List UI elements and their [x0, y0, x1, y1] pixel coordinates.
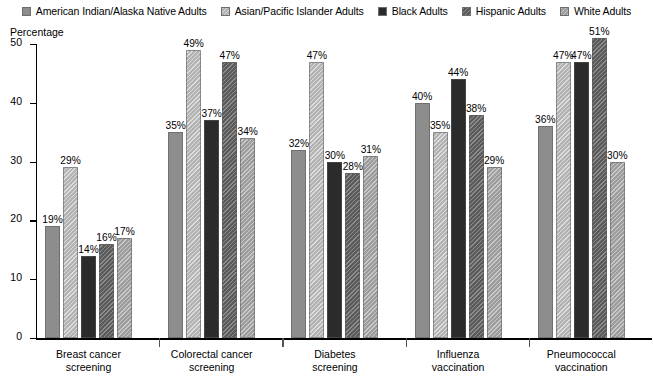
- bar-value-label-2-0: 32%: [289, 138, 309, 149]
- category-label-line-3-1: vaccination: [432, 361, 485, 374]
- legend-swatch-asian-pacific: [221, 7, 230, 16]
- bar-3-4[interactable]: 29%: [487, 167, 502, 338]
- legend-swatch-hispanic: [462, 7, 471, 16]
- y-tick-label-50: 50: [10, 37, 22, 48]
- bar-2-1[interactable]: 47%: [309, 62, 324, 338]
- bar-1-4[interactable]: 34%: [240, 138, 255, 338]
- group-separator-1: [159, 338, 160, 347]
- y-axis-line: [36, 44, 37, 338]
- y-tick-label-10: 10: [10, 272, 22, 283]
- category-label-line-4-0: Pneumococcal: [547, 348, 616, 361]
- group-separator-3: [406, 338, 407, 347]
- y-tick-10: 10: [30, 279, 36, 280]
- bar-value-label-0-0: 19%: [42, 214, 62, 225]
- y-tick-30: 30: [30, 162, 36, 163]
- bar-value-label-1-1: 49%: [183, 38, 203, 49]
- legend-item-1: Asian/Pacific Islander Adults: [221, 6, 364, 17]
- bar-value-label-3-0: 40%: [412, 91, 432, 102]
- bar-1-0[interactable]: 35%: [168, 132, 183, 338]
- bar-value-label-2-3: 28%: [343, 161, 363, 172]
- bar-value-label-4-3: 51%: [589, 26, 609, 37]
- y-tick-label-20: 20: [10, 213, 22, 224]
- bar-value-label-0-1: 29%: [60, 155, 80, 166]
- bar-0-2[interactable]: 14%: [81, 256, 96, 338]
- legend-swatch-american-indian: [22, 7, 31, 16]
- bar-value-label-2-2: 30%: [325, 150, 345, 161]
- bar-0-4[interactable]: 17%: [117, 238, 132, 338]
- bar-3-3[interactable]: 38%: [469, 115, 484, 338]
- bar-3-2[interactable]: 44%: [451, 79, 466, 338]
- bar-value-label-3-4: 29%: [484, 155, 504, 166]
- category-label-line-1-1: screening: [171, 361, 253, 374]
- y-tick-40: 40: [30, 103, 36, 104]
- y-tick-label-40: 40: [10, 96, 22, 107]
- bar-1-1[interactable]: 49%: [186, 50, 201, 338]
- y-tick-20: 20: [30, 220, 36, 221]
- legend-item-2: Black Adults: [378, 6, 448, 17]
- bar-value-label-1-4: 34%: [237, 126, 257, 137]
- bar-value-label-4-0: 36%: [535, 114, 555, 125]
- bar-2-0[interactable]: 32%: [291, 150, 306, 338]
- y-tick-label-0: 0: [16, 331, 22, 342]
- bar-value-label-0-4: 17%: [114, 226, 134, 237]
- category-label-line-3-0: Influenza: [432, 348, 485, 361]
- bar-2-4[interactable]: 31%: [363, 156, 378, 338]
- y-tick-0: 0: [30, 338, 36, 339]
- bar-value-label-2-4: 31%: [361, 144, 381, 155]
- legend-item-0: American Indian/Alaska Native Adults: [22, 6, 207, 17]
- bar-1-2[interactable]: 37%: [204, 120, 219, 338]
- legend-label-4: White Adults: [574, 6, 631, 17]
- bar-value-label-3-3: 38%: [466, 103, 486, 114]
- category-label-line-0-1: screening: [56, 361, 121, 374]
- bar-value-label-3-1: 35%: [430, 120, 450, 131]
- category-label-line-2-1: screening: [312, 361, 358, 374]
- y-tick-label-30: 30: [10, 155, 22, 166]
- bar-4-3[interactable]: 51%: [592, 38, 607, 338]
- bar-value-label-4-2: 47%: [571, 50, 591, 61]
- x-axis-line: [36, 338, 652, 340]
- category-label-0: Breast cancerscreening: [56, 348, 121, 373]
- bar-0-3[interactable]: 16%: [99, 244, 114, 338]
- bar-value-label-0-2: 14%: [78, 244, 98, 255]
- bar-value-label-4-4: 30%: [607, 150, 627, 161]
- group-separator-4: [529, 338, 530, 347]
- y-tick-50: 50: [30, 44, 36, 45]
- legend-item-3: Hispanic Adults: [462, 6, 546, 17]
- bar-1-3[interactable]: 47%: [222, 62, 237, 338]
- legend-label-3: Hispanic Adults: [476, 6, 546, 17]
- bar-0-0[interactable]: 19%: [45, 226, 60, 338]
- legend-item-4: White Adults: [560, 6, 631, 17]
- bar-2-3[interactable]: 28%: [345, 173, 360, 338]
- bar-0-1[interactable]: 29%: [63, 167, 78, 338]
- legend-label-1: Asian/Pacific Islander Adults: [235, 6, 364, 17]
- category-label-line-1-0: Colorectal cancer: [171, 348, 253, 361]
- category-label-line-0-0: Breast cancer: [56, 348, 121, 361]
- category-label-2: Diabetesscreening: [312, 348, 358, 373]
- bar-value-label-1-0: 35%: [165, 120, 185, 131]
- category-label-line-4-1: vaccination: [547, 361, 616, 374]
- category-label-1: Colorectal cancerscreening: [171, 348, 253, 373]
- plot-area: 01020304050 19%29%14%16%17%35%49%37%47%3…: [36, 44, 652, 338]
- category-label-3: Influenzavaccination: [432, 348, 485, 373]
- bar-value-label-1-3: 47%: [219, 50, 239, 61]
- group-separator-2: [282, 338, 283, 347]
- category-label-line-2-0: Diabetes: [312, 348, 358, 361]
- chart-legend: American Indian/Alaska Native AdultsAsia…: [0, 0, 653, 22]
- bar-4-4[interactable]: 30%: [610, 162, 625, 338]
- bar-value-label-1-2: 37%: [201, 108, 221, 119]
- legend-label-0: American Indian/Alaska Native Adults: [36, 6, 207, 17]
- category-label-4: Pneumococcalvaccination: [547, 348, 616, 373]
- bar-3-0[interactable]: 40%: [415, 103, 430, 338]
- legend-swatch-white: [560, 7, 569, 16]
- legend-swatch-black: [378, 7, 387, 16]
- bar-2-2[interactable]: 30%: [327, 162, 342, 338]
- bar-3-1[interactable]: 35%: [433, 132, 448, 338]
- bar-value-label-3-2: 44%: [448, 67, 468, 78]
- legend-label-2: Black Adults: [392, 6, 448, 17]
- bar-value-label-2-1: 47%: [307, 50, 327, 61]
- bar-4-2[interactable]: 47%: [574, 62, 589, 338]
- bar-4-1[interactable]: 47%: [556, 62, 571, 338]
- bar-4-0[interactable]: 36%: [538, 126, 553, 338]
